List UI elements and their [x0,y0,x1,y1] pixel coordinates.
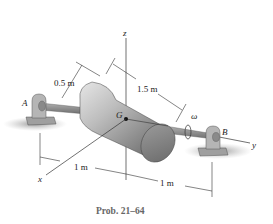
dim-length-ext-top [106,58,115,74]
dim-origin-b-line-2 [185,186,212,191]
dim-origin-b-label: 1 m [160,178,174,188]
dim-a-origin-label: 1 m [74,162,88,172]
point-b-label: B [222,127,228,137]
dim-radius-label: 0.5 m [54,78,75,88]
dim-length-label: 1.5 m [137,84,158,94]
dim-length-line-2 [158,94,182,110]
point-g-label: G [116,110,123,120]
dim-length-line-1 [113,64,136,79]
x-axis-label: x [37,174,42,184]
dim-origin-b-line-1 [126,174,158,181]
y-axis-label: y [251,140,256,150]
dim-a-origin-line-2 [95,168,126,174]
z-axis-label: z [122,28,127,38]
cylinder [80,82,182,168]
omega-label: ω [191,111,197,121]
point-a-label: A [21,98,28,108]
rotating-cylinder-diagram: 0.5 m 1.5 m 1 m 1 m A B G z y x ω Prob. … [0,0,273,224]
figure-caption: Prob. 21–64 [96,206,145,216]
dim-a-origin-line-1 [40,157,60,161]
